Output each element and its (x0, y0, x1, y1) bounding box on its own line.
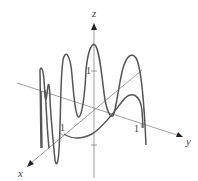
z-axis-label: z (92, 8, 96, 19)
x-tick (60, 133, 64, 136)
y-axis-arrow-icon (176, 132, 183, 137)
curves (40, 44, 146, 163)
x-axis-label: x (18, 168, 23, 179)
z-axis-arrow-icon (91, 23, 97, 30)
x-axis (31, 70, 142, 163)
z-tick-label: 1 (86, 66, 91, 76)
space-curve-plot (0, 0, 198, 181)
main-curve (40, 44, 146, 163)
y-tick (141, 124, 142, 128)
y-axis-label: y (186, 136, 191, 147)
x-tick-label: 1 (60, 123, 65, 133)
y-tick-label: 1 (134, 124, 139, 134)
